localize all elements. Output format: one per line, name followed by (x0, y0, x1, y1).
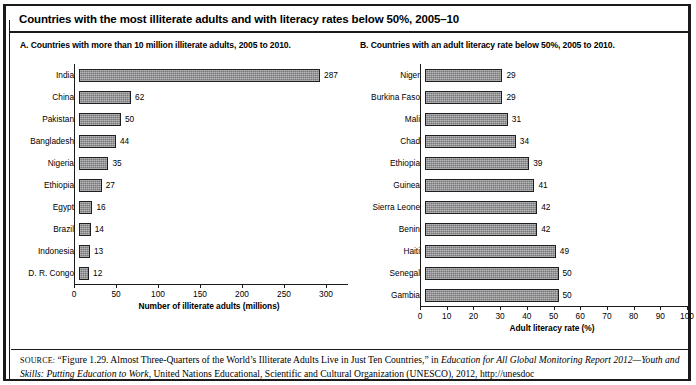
chart-b-bar-row: Chad34 (358, 130, 688, 152)
bar (79, 245, 90, 258)
chart-a-x-axis-title: Number of illiterate adults (millions) (18, 301, 348, 311)
category-label: Ethiopia (18, 181, 79, 189)
chart-a-bar-row: India287 (18, 64, 348, 86)
category-label: India (18, 71, 79, 79)
bar-value-label: 50 (125, 115, 134, 123)
chart-b-axis-row: 0102030405060708090100 (358, 306, 688, 307)
bar-value-label: 13 (94, 247, 103, 255)
bar (425, 91, 502, 104)
x-axis-tick (607, 306, 608, 310)
bar (425, 267, 559, 280)
bar-zone: 44 (79, 130, 348, 152)
bar (79, 157, 108, 170)
bar (425, 289, 559, 302)
x-axis-tick-label: 90 (656, 312, 665, 320)
x-axis-tick-label: 0 (72, 290, 77, 298)
bar (425, 201, 537, 214)
x-axis-tick-label: 60 (576, 312, 585, 320)
x-axis-tick (242, 284, 243, 288)
figure-title: Countries with the most illiterate adult… (12, 13, 459, 25)
bar-value-label: 34 (520, 137, 529, 145)
x-axis-tick-label: 150 (193, 290, 207, 298)
panel-a-subtitle: A. Countries with more than 10 million i… (20, 40, 348, 50)
chart-b-x-axis-title: Adult literacy rate (%) (358, 323, 688, 333)
x-axis-tick (200, 284, 201, 288)
x-axis-tick (500, 306, 501, 310)
chart-b-bar-row: Haiti49 (358, 240, 688, 262)
chart-a-bar-row: Nigeria35 (18, 152, 348, 174)
chart-a-bar-row: Ethiopia27 (18, 174, 348, 196)
bar-zone: 42 (425, 218, 688, 240)
category-label: China (18, 93, 79, 101)
bar-zone: 12 (79, 262, 348, 284)
bar-value-label: 49 (560, 247, 569, 255)
x-axis-tick-label: 40 (522, 312, 531, 320)
category-label: Gambia (358, 291, 425, 299)
x-axis-tick (473, 306, 474, 310)
source-text-a: “Figure 1.29. Almost Three-Quarters of t… (55, 354, 441, 365)
frame-right-border (688, 4, 691, 381)
x-axis-tick-label: 80 (629, 312, 638, 320)
chart-b-rows: Niger29Burkina Faso29Mali31Chad34Ethiopi… (358, 64, 688, 306)
x-axis-tick-label: 50 (549, 312, 558, 320)
bar (79, 223, 91, 236)
x-axis-tick-label: 50 (111, 290, 120, 298)
bar-zone: 16 (79, 196, 348, 218)
source-divider (11, 349, 689, 350)
chart-b-bar-row: Sierra Leone42 (358, 196, 688, 218)
panel-b: B. Countries with an adult literacy rate… (358, 40, 688, 333)
bar-value-label: 44 (120, 137, 129, 145)
source-text-b: , United Nations Educational, Scientific… (149, 368, 535, 379)
x-axis-tick (447, 306, 448, 310)
x-axis-tick-label: 30 (495, 312, 504, 320)
x-axis-tick (116, 284, 117, 288)
bar-value-label: 35 (112, 159, 121, 167)
bar (425, 157, 529, 170)
category-label: Sierra Leone (358, 203, 425, 211)
bar (79, 135, 116, 148)
bar-value-label: 27 (106, 181, 115, 189)
category-label: Brazil (18, 225, 79, 233)
bar-zone: 50 (425, 284, 688, 306)
category-label: D. R. Congo (18, 269, 79, 277)
chart-a-bar-row: Pakistan50 (18, 108, 348, 130)
bar-value-label: 29 (506, 71, 515, 79)
x-axis-tick (74, 284, 75, 288)
category-label: Guinea (358, 181, 425, 189)
bar (79, 267, 89, 280)
x-axis-tick (554, 306, 555, 310)
x-axis-tick (660, 306, 661, 310)
bar (425, 223, 537, 236)
chart-a-axis-row: 050100150200250300 (18, 284, 348, 285)
chart-b-y-axis (420, 64, 421, 306)
bar-value-label: 16 (96, 203, 105, 211)
bar-zone: 62 (79, 86, 348, 108)
chart-b-x-axis: 0102030405060708090100 (420, 306, 688, 307)
x-axis-tick (634, 306, 635, 310)
category-label: Chad (358, 137, 425, 145)
x-axis-tick-label: 0 (418, 312, 423, 320)
chart-a-y-axis (74, 64, 75, 284)
category-label: Niger (358, 71, 425, 79)
bar-value-label: 14 (95, 225, 104, 233)
chart-a-bar-row: D. R. Congo12 (18, 262, 348, 284)
chart-a-x-axis: 050100150200250300 (74, 284, 348, 285)
x-axis-tick (284, 284, 285, 288)
bar-zone: 50 (425, 262, 688, 284)
bar-value-label: 287 (324, 71, 338, 79)
bar-value-label: 31 (512, 115, 521, 123)
bar-zone: 42 (425, 196, 688, 218)
bar-zone: 49 (425, 240, 688, 262)
bar-value-label: 39 (533, 159, 542, 167)
x-axis-tick (527, 306, 528, 310)
bar-zone: 287 (79, 64, 348, 86)
chart-a-bar-row: Brazil14 (18, 218, 348, 240)
figure-title-bar: Countries with the most illiterate adult… (12, 6, 684, 31)
bar (425, 69, 502, 82)
chart-a: India287China62Pakistan50Bangladesh44Nig… (18, 64, 348, 311)
bar-zone: 29 (425, 64, 688, 86)
bar-value-label: 50 (563, 269, 572, 277)
x-axis-tick (158, 284, 159, 288)
chart-a-bar-row: Bangladesh44 (18, 130, 348, 152)
x-axis-tick-label: 70 (602, 312, 611, 320)
